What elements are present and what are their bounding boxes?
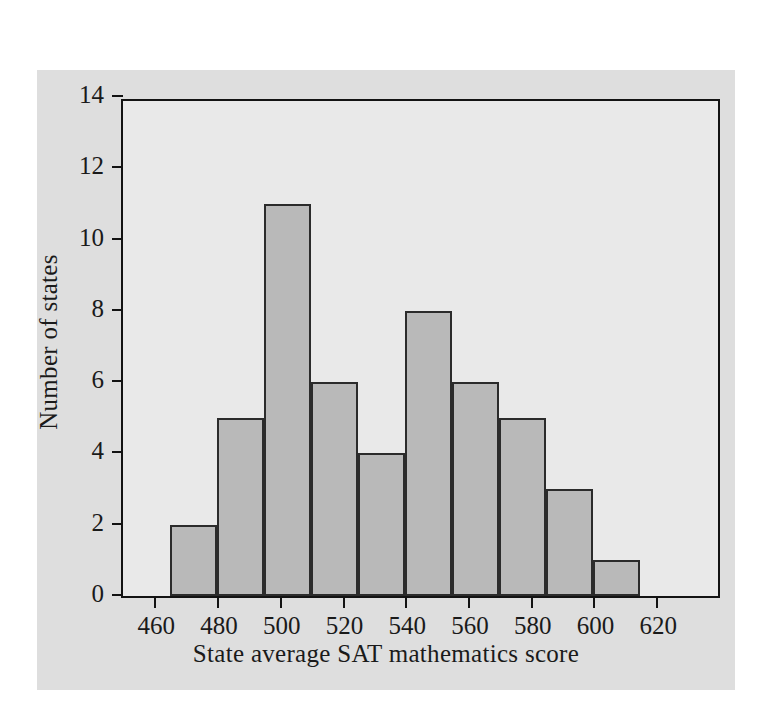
x-tick: 580 bbox=[531, 596, 533, 608]
x-axis-label: State average SAT mathematics score bbox=[37, 640, 735, 668]
x-tick: 620 bbox=[656, 596, 658, 608]
histogram-bar bbox=[358, 453, 405, 596]
y-tick-label: 8 bbox=[92, 295, 105, 323]
x-tick: 520 bbox=[343, 596, 345, 608]
x-tick: 560 bbox=[468, 596, 470, 608]
histogram-bar bbox=[170, 525, 217, 596]
histogram-bar bbox=[405, 311, 452, 596]
y-tick: 10 bbox=[112, 238, 123, 240]
y-tick: 0 bbox=[112, 594, 123, 596]
figure-panel: Number of states State average SAT mathe… bbox=[37, 70, 735, 690]
x-tick: 480 bbox=[217, 596, 219, 608]
x-tick: 600 bbox=[593, 596, 595, 608]
y-tick-label: 2 bbox=[92, 509, 105, 537]
x-tick-label: 620 bbox=[618, 612, 698, 640]
y-tick-label: 0 bbox=[92, 580, 105, 608]
plot-area: 02468101214 460480500520540560580600620 bbox=[121, 99, 720, 598]
y-tick: 14 bbox=[112, 95, 123, 97]
histogram-bar bbox=[311, 382, 358, 596]
y-tick: 4 bbox=[112, 451, 123, 453]
x-tick: 460 bbox=[154, 596, 156, 608]
y-tick: 6 bbox=[112, 380, 123, 382]
y-tick-label: 6 bbox=[92, 366, 105, 394]
y-tick-label: 12 bbox=[79, 152, 104, 180]
y-tick: 2 bbox=[112, 523, 123, 525]
y-tick: 12 bbox=[112, 166, 123, 168]
y-tick-label: 10 bbox=[79, 224, 104, 252]
histogram-bar bbox=[593, 560, 640, 596]
histogram-bar bbox=[452, 382, 499, 596]
histogram-bar bbox=[264, 204, 311, 596]
x-tick: 540 bbox=[405, 596, 407, 608]
y-tick: 8 bbox=[112, 309, 123, 311]
x-tick: 500 bbox=[280, 596, 282, 608]
y-axis-label: Number of states bbox=[35, 132, 63, 552]
histogram-bar bbox=[546, 489, 593, 596]
y-tick-label: 14 bbox=[79, 81, 104, 109]
histogram-bar bbox=[217, 418, 264, 596]
histogram-bar bbox=[499, 418, 546, 596]
y-tick-label: 4 bbox=[92, 437, 105, 465]
